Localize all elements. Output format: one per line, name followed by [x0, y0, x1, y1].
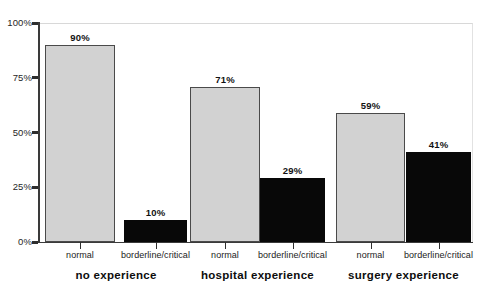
y-axis-line: [38, 22, 40, 243]
x-axis-tick: [156, 242, 157, 249]
x-axis-tick: [225, 242, 226, 249]
x-axis-category-label: borderline/critical: [379, 250, 491, 260]
bar-value-label: 71%: [190, 74, 260, 85]
bar-value-label: 90%: [45, 32, 115, 43]
bar-normal: [45, 45, 115, 242]
bar-value-label: 29%: [260, 165, 325, 176]
y-axis-tick-label: 75%: [13, 72, 32, 83]
bar-critical: [124, 220, 187, 242]
bar-critical: [406, 152, 471, 242]
y-axis-tick-label: 0%: [18, 236, 32, 247]
bar-value-label: 59%: [336, 100, 405, 111]
bar-value-label: 41%: [406, 139, 471, 150]
bar-value-label: 10%: [124, 207, 187, 218]
y-axis-tick-label: 50%: [13, 127, 32, 138]
y-axis-tick: [32, 186, 38, 189]
y-axis-tick: [32, 131, 38, 134]
x-axis-tick: [80, 242, 81, 249]
bar-critical: [260, 178, 325, 242]
x-axis-group-label: surgery experience: [314, 269, 491, 281]
y-axis-tick-label: 100%: [7, 17, 32, 28]
x-axis-tick: [293, 242, 294, 249]
y-axis-tick-label: 25%: [13, 181, 32, 192]
y-axis-tick: [32, 22, 38, 25]
bar-normal: [336, 113, 405, 242]
x-axis-tick: [371, 242, 372, 249]
chart-canvas: 0%25%50%75%100% 90%10%71%29%59%41% norma…: [0, 0, 491, 297]
y-axis-tick: [32, 76, 38, 79]
y-axis-tick: [32, 241, 38, 244]
x-axis-tick: [439, 242, 440, 249]
bar-normal: [190, 87, 260, 242]
